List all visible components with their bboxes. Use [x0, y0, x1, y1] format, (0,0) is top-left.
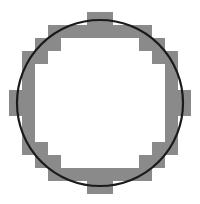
- raster-cell: [35, 142, 48, 155]
- raster-cell: [165, 90, 178, 103]
- raster-cell: [165, 51, 178, 64]
- raster-cell: [74, 25, 87, 38]
- raster-cell: [165, 129, 178, 142]
- raster-cell: [22, 129, 35, 142]
- raster-cell: [165, 64, 178, 77]
- raster-cell: [22, 116, 35, 129]
- raster-cell: [165, 142, 178, 155]
- raster-cell: [139, 25, 152, 38]
- raster-cell: [74, 168, 87, 181]
- raster-cell: [61, 168, 74, 181]
- raster-cell: [113, 25, 126, 38]
- raster-cell: [100, 25, 113, 38]
- raster-cell: [87, 25, 100, 38]
- raster-cell: [48, 38, 61, 51]
- raster-cell: [139, 38, 152, 51]
- raster-cell: [100, 168, 113, 181]
- raster-cell: [139, 155, 152, 168]
- raster-cell: [165, 103, 178, 116]
- raster-cell: [126, 168, 139, 181]
- raster-cell: [87, 181, 100, 194]
- raster-cell: [48, 155, 61, 168]
- raster-circle-figure: [0, 0, 200, 204]
- raster-cell: [22, 51, 35, 64]
- raster-cell: [165, 77, 178, 90]
- raster-cell: [152, 155, 165, 168]
- raster-cell: [9, 103, 22, 116]
- raster-cell: [152, 38, 165, 51]
- raster-cell: [22, 64, 35, 77]
- raster-cell: [113, 168, 126, 181]
- raster-cell: [87, 12, 100, 25]
- raster-cell: [22, 90, 35, 103]
- raster-cell: [152, 51, 165, 64]
- raster-cell: [61, 25, 74, 38]
- raster-cell: [100, 181, 113, 194]
- raster-cell: [35, 38, 48, 51]
- raster-cell: [152, 142, 165, 155]
- raster-cell: [139, 168, 152, 181]
- raster-cell: [22, 77, 35, 90]
- raster-cell: [165, 116, 178, 129]
- pixelated-circle-band: [0, 0, 200, 204]
- raster-cell-group: [9, 12, 191, 194]
- raster-cell: [48, 25, 61, 38]
- raster-cell: [22, 142, 35, 155]
- raster-cell: [178, 90, 191, 103]
- raster-cell: [9, 90, 22, 103]
- raster-cell: [48, 168, 61, 181]
- raster-cell: [35, 155, 48, 168]
- raster-cell: [87, 168, 100, 181]
- raster-cell: [178, 103, 191, 116]
- raster-cell: [22, 103, 35, 116]
- raster-cell: [100, 12, 113, 25]
- raster-cell: [126, 25, 139, 38]
- raster-cell: [35, 51, 48, 64]
